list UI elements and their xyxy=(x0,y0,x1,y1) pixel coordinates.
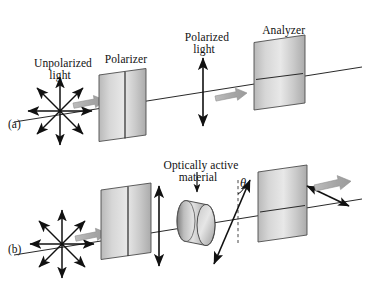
label-polarizer-a-text: Polarizer xyxy=(105,53,147,65)
label-polarized-light-text: Polarized light xyxy=(185,31,229,56)
panel-label-a-text: (a) xyxy=(8,118,21,130)
label-analyzer-text: Analyzer xyxy=(262,24,305,36)
optically-active-cylinder xyxy=(177,201,215,246)
panel-label-b-text: (b) xyxy=(8,243,21,255)
label-polarized-light: Polarized light xyxy=(168,18,240,56)
panel-label-b: (b) xyxy=(8,243,21,255)
polarizer-plate-b xyxy=(101,183,151,260)
panel-label-a: (a) xyxy=(8,118,21,130)
label-unpolarized-light-text: Unpolarized light xyxy=(34,57,92,82)
label-optically-active-material: Optically active material xyxy=(143,146,253,184)
label-theta-text: θ xyxy=(240,176,246,190)
analyzer-plate-b xyxy=(258,165,307,242)
label-polarizer-a: Polarizer xyxy=(85,40,161,65)
label-theta: θ xyxy=(240,176,246,191)
label-analyzer: Analyzer xyxy=(244,11,318,36)
analyzer-plate-a xyxy=(254,35,305,110)
label-optically-active-material-text: Optically active material xyxy=(164,159,239,184)
